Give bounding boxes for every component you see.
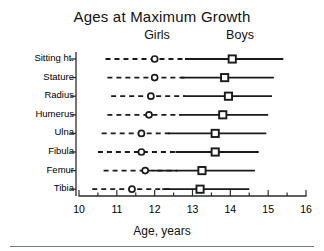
x-tick-label: 13 [181, 203, 205, 215]
bottom-divider [10, 246, 314, 247]
x-tick-label: 14 [218, 203, 242, 215]
x-tick-label: 12 [143, 203, 167, 215]
x-tick-label: 16 [294, 203, 318, 215]
chart-figure: Ages at Maximum Growth Girls Boys Sittin… [0, 0, 324, 251]
x-tick-label: 15 [256, 203, 280, 215]
x-tick-label: 11 [105, 203, 129, 215]
x-axis-title: Age, years [0, 224, 324, 238]
x-tick-label: 10 [67, 203, 91, 215]
